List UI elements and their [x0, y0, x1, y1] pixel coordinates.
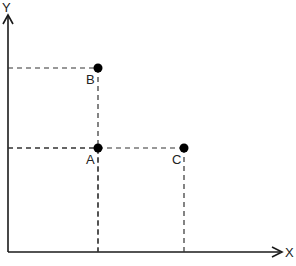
- point-label-c: C: [172, 152, 181, 167]
- coordinate-diagram: Y X BAC: [0, 0, 296, 266]
- x-axis-label: X: [285, 245, 294, 260]
- point-b: [94, 64, 103, 73]
- point-a: [94, 144, 103, 153]
- point-label-b: B: [86, 72, 95, 87]
- y-axis-label: Y: [2, 0, 11, 15]
- point-label-a: A: [86, 152, 95, 167]
